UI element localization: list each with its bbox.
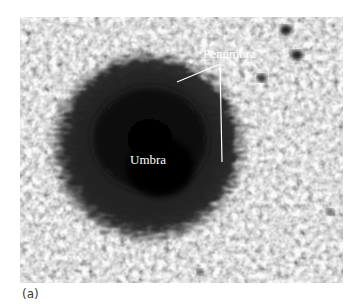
umbra-label: Umbra xyxy=(130,152,166,167)
penumbra-label: Penumbra xyxy=(203,46,256,61)
figure: Penumbra Umbra (a) xyxy=(0,0,360,304)
panel-label: (a) xyxy=(22,287,39,301)
sunspot-photograph: Penumbra Umbra xyxy=(20,17,343,283)
